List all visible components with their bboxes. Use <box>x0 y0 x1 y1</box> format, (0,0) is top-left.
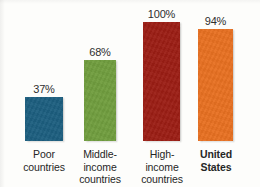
bar-rect-3[interactable] <box>198 29 233 141</box>
category-label-1-line-1: Middle- <box>65 148 135 161</box>
bar-value-label-2: 100% <box>148 8 175 20</box>
category-label-1-line-3: countries <box>65 173 135 186</box>
category-label-1-line-2: income <box>65 161 135 174</box>
bar-column-1: 68% <box>84 46 116 141</box>
bar-value-label-1: 68% <box>89 46 110 58</box>
bar-column-2: 100% <box>143 8 180 141</box>
bar-group-3: 94% <box>198 0 233 141</box>
bar-rect-2[interactable] <box>143 22 180 141</box>
bar-value-label-0: 37% <box>33 83 54 95</box>
bar-group-2: 100% <box>143 0 180 141</box>
category-label-3-line-2: States <box>181 161 251 174</box>
bar-column-0: 37% <box>25 83 63 141</box>
bar-column-3: 94% <box>198 15 233 141</box>
bar-rect-1[interactable] <box>84 60 116 141</box>
bar-chart: 37% 68% 100% 94% Poor count <box>0 0 260 187</box>
category-label-3: United States <box>181 148 251 173</box>
bar-rect-0[interactable] <box>25 97 63 141</box>
category-axis: Poor countries Middle- income countries … <box>0 141 260 187</box>
bar-value-label-3: 94% <box>205 15 226 27</box>
bar-group-0: 37% <box>25 0 63 141</box>
category-label-2-line-3: countries <box>127 173 197 186</box>
bar-group-1: 68% <box>84 0 116 141</box>
category-label-3-line-1: United <box>181 148 251 161</box>
plot-area: 37% 68% 100% 94% <box>0 0 260 141</box>
category-label-1: Middle- income countries <box>65 148 135 186</box>
